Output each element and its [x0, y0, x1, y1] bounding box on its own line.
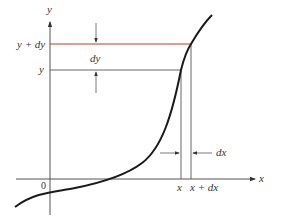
y-plus-dy-label: y + dy: [17, 39, 45, 50]
dy-label: dy: [90, 53, 100, 64]
origin-label: 0: [41, 181, 46, 191]
y-label: y: [39, 64, 44, 75]
x-plus-dx-label: x + dx: [190, 182, 218, 193]
x-label: x: [177, 182, 182, 193]
dx-label: dx: [216, 147, 226, 158]
diagram-canvas: y x 0 y + dy y dy dx x x + dx: [0, 0, 284, 220]
y-axis-label: y: [47, 4, 52, 15]
x-axis-label: x: [259, 173, 264, 184]
